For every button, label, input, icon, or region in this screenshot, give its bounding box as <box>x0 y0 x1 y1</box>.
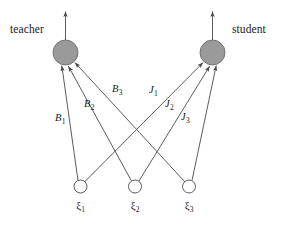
weight-label-j3: J3 <box>181 111 189 122</box>
node-xi2[interactable] <box>129 180 142 193</box>
weight-label-b1: B1 <box>55 112 65 123</box>
label-teacher: teacher <box>10 23 44 35</box>
weight-subscript-b2: 2 <box>91 103 95 112</box>
weight-subscript-j1: 1 <box>154 89 158 98</box>
weight-subscript-j2: 2 <box>170 103 174 112</box>
edge-xi3-student <box>192 66 216 181</box>
weight-subscript-b1: 1 <box>62 117 66 126</box>
input-subscript-xi1: 1 <box>81 205 85 214</box>
input-label-xi3: ξ3 <box>185 199 194 211</box>
weight-label-j2: J2 <box>165 98 173 109</box>
node-student[interactable] <box>200 40 225 65</box>
node-xi3[interactable] <box>183 180 196 193</box>
weight-label-b3: B3 <box>112 83 122 94</box>
weight-symbol-b3: B <box>112 83 118 94</box>
input-subscript-xi2: 2 <box>136 205 140 214</box>
input-label-xi1: ξ1 <box>76 199 85 211</box>
weight-symbol-j3: J <box>181 111 186 122</box>
edges-group <box>62 63 216 182</box>
weight-symbol-j1: J <box>149 84 154 95</box>
node-xi1[interactable] <box>74 180 87 193</box>
weight-symbol-b2: B <box>84 98 90 109</box>
label-student: student <box>232 23 266 35</box>
network-diagram: teacher student B1 B2 B3 J1 J2 J3 ξ1 ξ2 … <box>0 0 285 226</box>
output-arrows-group <box>66 12 213 41</box>
weight-subscript-j3: 3 <box>186 116 190 125</box>
input-label-xi2: ξ2 <box>131 199 140 211</box>
output-nodes-group <box>53 40 225 65</box>
weight-label-b2: B2 <box>84 98 94 109</box>
node-teacher[interactable] <box>53 40 78 65</box>
edge-xi3-teacher <box>75 63 185 182</box>
input-subscript-xi3: 3 <box>190 205 194 214</box>
weight-symbol-j2: J <box>165 98 170 109</box>
weight-symbol-b1: B <box>55 112 61 123</box>
weight-subscript-b3: 3 <box>119 88 123 97</box>
weight-label-j1: J1 <box>149 84 157 95</box>
input-nodes-group <box>74 180 196 193</box>
